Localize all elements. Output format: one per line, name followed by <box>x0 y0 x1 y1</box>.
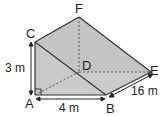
arrowhead-right-icon <box>101 97 105 101</box>
vertex-label-A: A <box>25 96 34 111</box>
vertex-label-B: B <box>106 101 115 116</box>
prism-diagram: F C D E A B 3 m 4 m 16 m <box>0 0 161 116</box>
vertex-label-C: C <box>26 26 35 41</box>
measurement-length: 16 m <box>131 84 158 98</box>
measurement-base: 4 m <box>59 101 79 115</box>
vertex-label-E: E <box>150 63 159 78</box>
arrowhead-down-icon <box>29 91 33 95</box>
arrowhead-left-icon <box>36 97 40 101</box>
vertex-label-F: F <box>75 1 83 16</box>
measurement-height: 3 m <box>5 61 25 75</box>
vertex-label-D: D <box>82 58 91 73</box>
arrowhead-up-icon <box>29 42 33 46</box>
